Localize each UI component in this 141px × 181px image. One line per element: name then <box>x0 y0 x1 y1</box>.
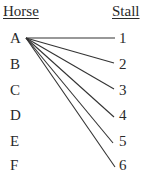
line-a-6 <box>26 38 115 167</box>
line-a-5 <box>26 38 113 143</box>
line-a-3 <box>26 38 114 89</box>
line-a-4 <box>26 38 114 117</box>
connection-lines <box>0 0 141 181</box>
